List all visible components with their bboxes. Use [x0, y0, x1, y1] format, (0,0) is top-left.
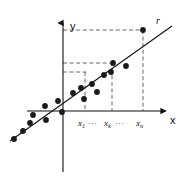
tick-subscript: n: [140, 122, 143, 129]
data-point: [43, 117, 49, 123]
scatter-plot-figure: y x r x1 ··· xk ··· xn: [0, 0, 196, 186]
x-axis-label: x: [170, 114, 176, 126]
y-axis-label: y: [70, 20, 76, 32]
figure-canvas: y x r x1 ··· xk ··· xn: [0, 0, 196, 186]
data-point: [89, 81, 95, 87]
x-tick-label-x1: x1 ···: [77, 118, 97, 129]
data-point: [11, 136, 17, 142]
tick-subscript: k: [108, 122, 111, 129]
tick-ellipsis: ···: [115, 119, 124, 128]
data-point: [123, 63, 129, 69]
data-point: [42, 103, 48, 109]
regression-line-label: r: [156, 15, 160, 26]
x-tick-label-xn: xn: [135, 118, 143, 129]
guide-lines-group: [63, 30, 143, 111]
svg-text:xn: xn: [135, 118, 143, 129]
svg-text:x1: x1: [77, 118, 85, 129]
data-point: [70, 90, 76, 96]
tick-subscript: 1: [82, 122, 85, 129]
data-point: [55, 98, 61, 104]
data-point: [59, 109, 65, 115]
data-point: [94, 89, 100, 95]
svg-text:xk: xk: [103, 118, 111, 129]
data-point: [81, 96, 87, 102]
data-point: [110, 60, 116, 66]
data-point: [78, 85, 84, 91]
data-point: [27, 120, 33, 126]
x-tick-label-xk: xk ···: [103, 118, 124, 129]
data-point: [101, 72, 107, 78]
data-point: [30, 112, 36, 118]
data-point-xn: [140, 27, 146, 33]
tick-ellipsis: ···: [88, 119, 97, 128]
data-point: [108, 69, 114, 75]
data-point: [20, 128, 26, 134]
